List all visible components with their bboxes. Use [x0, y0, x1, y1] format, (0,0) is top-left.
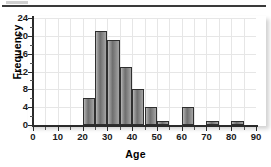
x-axis-tick-label: 10 — [48, 132, 68, 142]
bar-series — [33, 18, 256, 125]
y-axis-tick — [28, 72, 33, 73]
y-axis-minor-tick — [30, 45, 33, 46]
y-axis-tick — [28, 36, 33, 37]
page-top-rule — [2, 5, 266, 7]
y-axis-tick — [28, 54, 33, 55]
y-axis-tick-label: 4 — [6, 102, 28, 111]
y-axis-minor-tick — [30, 116, 33, 117]
y-axis-minor-tick — [30, 63, 33, 64]
x-axis-minor-tick — [219, 127, 220, 130]
y-axis-tick — [28, 18, 33, 19]
histogram-bar — [120, 67, 132, 125]
plot-area — [33, 18, 256, 125]
x-axis-tick-label: 0 — [23, 132, 43, 142]
x-axis-minor-tick — [120, 127, 121, 130]
x-axis-minor-tick — [194, 127, 195, 130]
x-axis-tick-label: 30 — [97, 132, 117, 142]
y-axis-tick — [28, 89, 33, 90]
x-axis-tick-label: 80 — [221, 132, 241, 142]
histogram-bar — [95, 31, 107, 125]
x-axis-tick-label: 20 — [73, 132, 93, 142]
histogram-figure: 04812162024 0102030405060708090 Age Freq… — [0, 0, 271, 167]
y-axis-minor-tick — [30, 80, 33, 81]
x-axis-title: Age — [0, 148, 271, 160]
y-axis-title: Frequency — [11, 7, 23, 97]
x-axis-minor-tick — [145, 127, 146, 130]
x-axis-tick-label: 40 — [122, 132, 142, 142]
histogram-bar — [182, 107, 194, 125]
x-axis-tick-label: 90 — [246, 132, 266, 142]
y-axis-tick — [28, 107, 33, 108]
x-axis-tick-label: 50 — [147, 132, 167, 142]
y-axis-tick-label: 0 — [6, 120, 28, 129]
y-axis-tick — [28, 125, 33, 126]
x-axis-minor-tick — [244, 127, 245, 130]
histogram-bar — [83, 98, 95, 125]
histogram-bar — [132, 89, 144, 125]
x-axis-tick-label: 60 — [172, 132, 192, 142]
x-axis-minor-tick — [95, 127, 96, 130]
x-axis-tick-label: 70 — [196, 132, 216, 142]
x-axis-minor-tick — [45, 127, 46, 130]
x-axis-minor-tick — [169, 127, 170, 130]
histogram-bar — [145, 107, 157, 125]
y-axis-minor-tick — [30, 98, 33, 99]
histogram-bar — [107, 40, 119, 125]
y-axis-minor-tick — [30, 27, 33, 28]
x-axis-minor-tick — [70, 127, 71, 130]
